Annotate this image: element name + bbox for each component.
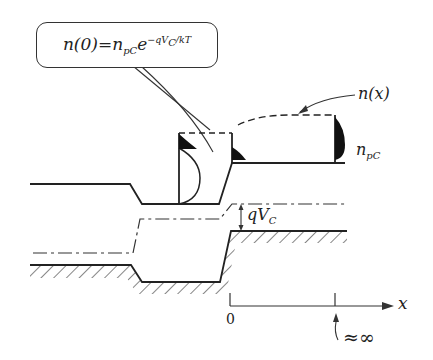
callout-pointer <box>133 66 213 152</box>
conduction-band <box>30 163 345 204</box>
qvc-arrow <box>239 204 244 231</box>
equation-callout: n(0)=npCe−qVC/kT <box>36 22 218 68</box>
label-qvc: qVC <box>247 205 276 226</box>
equation: n(0)=npCe−qVC/kT <box>63 34 191 56</box>
carrier-profile <box>179 95 355 204</box>
label-n-pc: npC <box>356 140 380 161</box>
label-axis-x: x <box>398 293 408 313</box>
label-n-x: n(x) <box>358 84 390 103</box>
label-infinity: ≈∞ <box>343 326 375 348</box>
label-axis-origin: 0 <box>226 311 235 327</box>
fermi-level <box>33 204 345 253</box>
valence-band <box>30 231 347 294</box>
